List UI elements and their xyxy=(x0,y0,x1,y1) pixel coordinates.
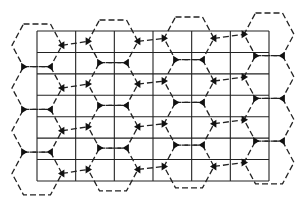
hexagon xyxy=(88,63,138,106)
bridge-link xyxy=(62,127,88,131)
junction-node xyxy=(21,105,27,113)
junction-node xyxy=(47,105,53,113)
junction-node xyxy=(199,56,205,64)
junction-node xyxy=(97,101,103,109)
bridge-link xyxy=(62,41,88,45)
junction-node xyxy=(47,63,53,71)
bridge-link xyxy=(138,38,164,41)
bridge-link xyxy=(138,81,164,84)
junction-node xyxy=(97,59,103,67)
junction-node xyxy=(199,98,205,106)
junction-node xyxy=(97,144,103,152)
bridge-link xyxy=(214,34,244,38)
junction-node xyxy=(173,98,179,106)
bridge-link xyxy=(138,166,164,169)
junction-node xyxy=(123,59,129,67)
junction-node xyxy=(173,141,179,149)
hexagon xyxy=(88,148,138,191)
hexagon xyxy=(164,60,214,103)
junction-node xyxy=(21,63,27,71)
bridge-link xyxy=(214,77,244,81)
junction-node xyxy=(21,148,27,156)
hexagon xyxy=(88,20,138,63)
hex-grid-diagram xyxy=(0,0,303,202)
hexagon xyxy=(164,17,214,60)
junction-node xyxy=(123,144,129,152)
junction-node xyxy=(47,148,53,156)
junction-node xyxy=(279,52,285,60)
junction-node xyxy=(279,137,285,145)
junction-node xyxy=(173,56,179,64)
bridge-link xyxy=(62,169,88,173)
rectangular-grid xyxy=(37,31,269,181)
junction-node xyxy=(279,94,285,102)
bridge-link xyxy=(62,84,88,88)
hexagon xyxy=(164,102,214,145)
hexagon xyxy=(88,105,138,148)
bridge-link xyxy=(214,162,244,166)
bridge-link xyxy=(214,120,244,124)
junction-node xyxy=(199,141,205,149)
bridge-link xyxy=(138,124,164,127)
junction-node xyxy=(123,101,129,109)
